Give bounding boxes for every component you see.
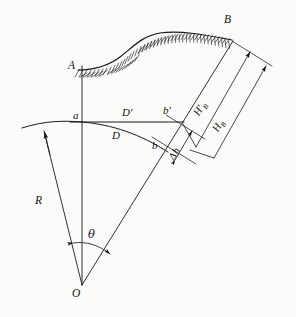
figure-canvas: A B O a b b′ D′ D R θ H′B HB Δh — [0, 0, 296, 317]
radius-arrow — [45, 132, 51, 155]
label-point-A: A — [68, 60, 75, 72]
label-distance-D: D — [112, 130, 120, 141]
terrain-hatching — [75, 34, 230, 78]
label-distance-D-prime: D′ — [122, 107, 132, 118]
label-point-B: B — [224, 14, 231, 26]
ray-OB — [82, 41, 233, 285]
label-point-a: a — [73, 110, 79, 121]
label-radius-R: R — [35, 195, 42, 207]
label-point-b-prime: b′ — [163, 105, 171, 116]
diagram-svg — [0, 0, 296, 317]
dimension-H-B-prime — [183, 52, 250, 147]
terrain-profile — [78, 32, 232, 70]
curvature-arc — [22, 121, 168, 152]
label-point-O: O — [72, 288, 80, 300]
extension-line-B — [232, 41, 272, 66]
label-point-b: b — [152, 140, 158, 151]
label-angle-theta: θ — [88, 229, 95, 241]
